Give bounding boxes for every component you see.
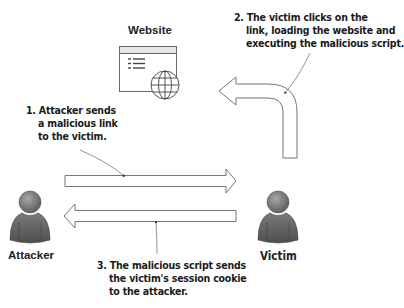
globe-icon [151,71,179,99]
step-2-line-2: link, loading the website and [234,24,404,37]
leader-line-step3 [156,222,157,254]
step-1-annotation: 1. Attacker sends a malicious link to th… [26,104,118,143]
step-3-line-3: to the attacker. [97,285,246,298]
website-icon [120,47,180,100]
step-3-annotation: 3. The malicious script sends the victim… [97,259,246,298]
step-3-line-2: the victim's session cookie [97,272,246,285]
victim-label: Victim [260,249,297,263]
leader-line-step1 [80,150,124,176]
curved-arrow-to-website [219,77,297,158]
step-2-annotation: 2. The victim clicks on the link, loadin… [234,11,404,50]
arrow-attacker-to-victim [65,169,236,193]
attacker-label: Attacker [8,249,54,261]
step-2-line-1: 2. The victim clicks on the [234,11,404,24]
step-1-line-1: 1. Attacker sends [26,104,118,117]
arrow-victim-to-attacker [64,204,236,228]
attacker-avatar-icon [10,191,50,243]
leader-line-step2 [285,53,310,93]
step-1-line-3: to the victim. [26,130,118,143]
step-1-line-2: a malicious link [26,117,118,130]
step-3-line-1: 3. The malicious script sends [97,259,246,272]
website-label: Website [128,24,172,36]
victim-avatar-icon [258,191,298,243]
step-2-line-3: executing the malicious script. [234,37,404,50]
